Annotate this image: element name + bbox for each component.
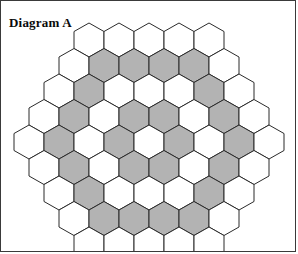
hexagon-grid xyxy=(1,1,296,252)
diagram-figure-frame: Diagram A xyxy=(0,0,296,252)
page-title: Diagram A xyxy=(9,15,72,31)
hexagon-cell-layer xyxy=(14,23,284,252)
